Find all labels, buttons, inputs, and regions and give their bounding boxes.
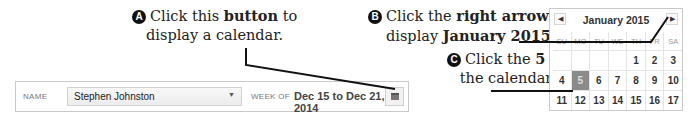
callout-b: BClick the right arrow to display Januar… (368, 6, 568, 46)
calendar-day[interactable]: 4 (553, 71, 571, 91)
arrow-right-icon: ▶ (670, 15, 675, 22)
callout-b-line2-pre: display (386, 28, 443, 44)
calendar-empty-cell (553, 51, 571, 71)
calendar-empty-cell (590, 51, 609, 71)
calendar-month-label: January 2015 (550, 14, 682, 26)
weekday-fr: FR (645, 32, 664, 51)
callout-a-text-post: to (278, 8, 297, 24)
weekday-th: TH (627, 32, 646, 51)
calendar-button[interactable] (385, 87, 404, 106)
calendar-empty-cell (608, 51, 627, 71)
name-dropdown[interactable]: Stephen Johnston ▼ (67, 87, 242, 106)
calendar-day[interactable]: 8 (627, 71, 646, 91)
calendar-header: ◀ January 2015 ▶ (550, 9, 682, 31)
next-month-button[interactable]: ▶ (666, 13, 678, 25)
callout-b-line2: display January 2015. (368, 26, 568, 46)
calendar-day[interactable]: 10 (664, 71, 682, 91)
weekday-su: SU (553, 32, 571, 51)
calendar-week-row: 11 12 13 14 15 16 17 (553, 91, 682, 111)
step-a-badge: A (132, 10, 146, 24)
callout-b-line2-bold: January 2015 (443, 27, 551, 44)
calendar-week-row: 4 5 6 7 8 9 10 (553, 71, 682, 91)
callout-a-line2: display a calendar. (132, 26, 297, 45)
callout-c-text: Click the (465, 51, 535, 67)
calendar-day[interactable]: 15 (627, 91, 646, 111)
calendar-empty-cell (571, 51, 590, 71)
weekday-we: WE (608, 32, 627, 51)
calendar-day[interactable]: 17 (664, 91, 682, 111)
calendar-week-row: 1 2 3 (553, 51, 682, 71)
calendar-popup: ◀ January 2015 ▶ SU MO TU WE TH FR SA 1 … (549, 8, 683, 111)
calendar-icon (391, 93, 399, 100)
callout-a: AClick this button to display a calendar… (132, 6, 297, 45)
step-b-badge: B (368, 10, 382, 24)
step-c-badge: C (447, 53, 461, 67)
calendar-day[interactable]: 7 (608, 71, 627, 91)
calendar-day[interactable]: 2 (645, 51, 664, 71)
callout-a-bold: button (224, 7, 278, 24)
calendar-day[interactable]: 13 (590, 91, 609, 111)
week-of-label: WEEK OF (251, 92, 290, 101)
chevron-down-icon: ▼ (228, 91, 235, 98)
calendar-grid: SU MO TU WE TH FR SA 1 2 3 4 5 6 7 8 9 1… (553, 32, 682, 110)
callout-b-bold: right arrow (456, 7, 548, 24)
calendar-day[interactable]: 12 (571, 91, 590, 111)
name-dropdown-value: Stephen Johnston (74, 91, 155, 102)
callout-a-line1: AClick this button to (132, 6, 297, 26)
calendar-day[interactable]: 1 (627, 51, 646, 71)
callout-b-line1: BClick the right arrow to (368, 6, 568, 26)
name-label: NAME (23, 92, 47, 101)
calendar-day[interactable]: 14 (608, 91, 627, 111)
callout-b-text: Click the (386, 8, 456, 24)
weekday-header-row: SU MO TU WE TH FR SA (553, 32, 682, 51)
timesheet-toolbar: NAME Stephen Johnston ▼ WEEK OF Dec 15 t… (15, 81, 409, 112)
calendar-day[interactable]: 3 (664, 51, 682, 71)
calendar-day-selected[interactable]: 5 (571, 71, 590, 91)
weekday-mo: MO (571, 32, 590, 51)
calendar-day[interactable]: 6 (590, 71, 609, 91)
callout-a-text: Click this (150, 8, 224, 24)
weekday-tu: TU (590, 32, 609, 51)
calendar-day[interactable]: 9 (645, 71, 664, 91)
weekday-sa: SA (664, 32, 682, 51)
calendar-day[interactable]: 16 (645, 91, 664, 111)
calendar-day[interactable]: 11 (553, 91, 571, 111)
callout-c-bold: 5 (535, 50, 545, 67)
